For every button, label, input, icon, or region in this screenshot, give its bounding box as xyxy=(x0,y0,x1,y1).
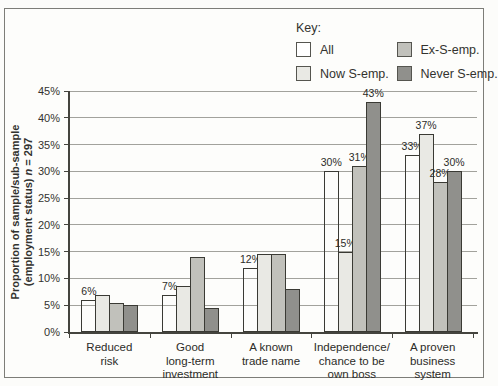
legend-item-ex-s-emp: Ex-S-emp. xyxy=(397,42,484,57)
bar-all-a-proven-business-system xyxy=(405,155,420,332)
legend-swatch-now-s-emp xyxy=(296,66,311,81)
y-tick-label-35: 35% xyxy=(24,139,60,151)
bar-never-s-emp-a-proven-business-system xyxy=(447,171,462,332)
bar-all-good-long-term-investment xyxy=(162,295,177,332)
y-tick-label-15: 15% xyxy=(24,246,60,258)
bar-all-independence-chance-to-be-own-boss xyxy=(324,171,339,332)
legend-item-never-s-emp: Never S-emp. xyxy=(397,66,484,81)
x-tick-4 xyxy=(392,334,393,338)
legend-label-never-s-emp: Never S-emp. xyxy=(421,67,498,81)
x-tick-3 xyxy=(311,334,312,338)
bar-now-s-emp-good-long-term-investment xyxy=(176,286,191,332)
legend-label-all: All xyxy=(320,43,334,57)
bar-never-s-emp-a-known-trade-name xyxy=(285,289,300,332)
category-label-line: system xyxy=(378,368,488,382)
bar-ex-s-emp-independence-chance-to-be-own-boss xyxy=(352,166,367,332)
bar-ex-s-emp-a-proven-business-system xyxy=(433,182,448,332)
bar-ex-s-emp-a-known-trade-name xyxy=(271,254,286,332)
category-label-line: A proven xyxy=(378,341,488,355)
bar-value-never-s-emp-independence-chance-to-be-own-boss: 43% xyxy=(355,87,391,99)
legend-swatch-ex-s-emp xyxy=(397,42,412,57)
y-tick-label-10: 10% xyxy=(24,272,60,284)
y-axis-title-line1: Proportion of sample/sub-sample xyxy=(9,125,22,300)
bar-value-never-s-emp-a-proven-business-system: 30% xyxy=(436,156,472,168)
x-tick-0 xyxy=(69,334,70,338)
y-tick-label-40: 40% xyxy=(24,112,60,124)
y-tick-label-20: 20% xyxy=(24,219,60,231)
category-label-a-proven-business-system: A provenbusinesssystem xyxy=(378,341,488,382)
bar-never-s-emp-reduced-risk xyxy=(123,305,138,332)
legend-item-all: All xyxy=(296,42,383,57)
gridline-45 xyxy=(69,91,477,92)
bar-now-s-emp-independence-chance-to-be-own-boss xyxy=(338,252,353,332)
bar-now-s-emp-a-known-trade-name xyxy=(257,254,272,332)
legend-swatch-never-s-emp xyxy=(397,66,412,81)
bar-never-s-emp-good-long-term-investment xyxy=(204,308,219,332)
x-tick-1 xyxy=(150,334,151,338)
legend-label-now-s-emp: Now S-emp. xyxy=(320,67,389,81)
legend-title: Key: xyxy=(296,21,483,35)
bar-ex-s-emp-reduced-risk xyxy=(109,303,124,332)
bar-never-s-emp-independence-chance-to-be-own-boss xyxy=(366,102,381,332)
y-tick-label-30: 30% xyxy=(24,165,60,177)
bar-ex-s-emp-good-long-term-investment xyxy=(190,257,205,332)
bar-all-reduced-risk xyxy=(81,300,96,332)
bar-all-a-known-trade-name xyxy=(243,268,258,332)
legend-item-now-s-emp: Now S-emp. xyxy=(296,66,383,81)
bar-value-now-s-emp-a-proven-business-system: 37% xyxy=(408,119,444,131)
category-label-line: investment xyxy=(135,368,245,382)
y-tick-label-0: 0% xyxy=(24,326,60,338)
chart-legend: Key: AllNow S-emp.Ex-S-emp.Never S-emp. xyxy=(296,21,483,81)
legend-swatch-all xyxy=(296,42,311,57)
y-tick-label-5: 5% xyxy=(24,299,60,311)
y-tick-label-45: 45% xyxy=(24,85,60,97)
bar-now-s-emp-reduced-risk xyxy=(95,295,110,332)
x-tick-5 xyxy=(473,334,474,338)
legend-items: AllNow S-emp.Ex-S-emp.Never S-emp. xyxy=(296,42,483,81)
y-axis-line xyxy=(68,91,70,332)
y-tick-label-25: 25% xyxy=(24,192,60,204)
x-axis-line xyxy=(68,332,478,334)
bar-now-s-emp-a-proven-business-system xyxy=(419,134,434,332)
category-label-line: business xyxy=(378,355,488,369)
legend-label-ex-s-emp: Ex-S-emp. xyxy=(421,43,480,57)
x-tick-2 xyxy=(231,334,232,338)
chart-figure: Key: AllNow S-emp.Ex-S-emp.Never S-emp. … xyxy=(4,8,484,378)
